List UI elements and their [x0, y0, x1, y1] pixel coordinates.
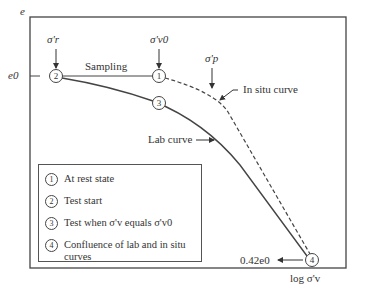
x-axis-label: log σ'v	[290, 272, 320, 284]
marker-3: 3	[152, 96, 166, 110]
sigma-r-label: σ'r	[47, 33, 59, 45]
legend-text-4: Confluence of lab and in situ curves	[64, 239, 189, 263]
legend-num-1: 1	[45, 173, 58, 186]
sampling-label: Sampling	[85, 60, 127, 72]
legend-item-2: 2 Test start	[45, 195, 102, 208]
marker-2: 2	[49, 69, 63, 83]
lab-curve-label: Lab curve	[148, 133, 192, 145]
legend-num-2: 2	[45, 195, 58, 208]
legend-num-3: 3	[45, 217, 58, 230]
marker-4: 4	[305, 253, 319, 267]
marker-1: 1	[152, 69, 166, 83]
legend-item-4: 4 Confluence of lab and in situ curves	[45, 239, 195, 263]
in-situ-pointer	[220, 90, 238, 100]
legend-text-3: Test when σ'v equals σ'v0	[64, 217, 172, 229]
sigma-v0-label: σ'v0	[150, 33, 168, 45]
legend-box: 1 At rest state 2 Test start 3 Test when…	[38, 164, 202, 262]
legend-num-4: 4	[45, 239, 58, 252]
low-e-label: 0.42e0	[240, 254, 270, 266]
legend-item-3: 3 Test when σ'v equals σ'v0	[45, 217, 172, 230]
legend-text-2: Test start	[64, 195, 102, 207]
sigma-p-label: σ'p	[205, 52, 218, 64]
in-situ-curve-label: In situ curve	[243, 83, 298, 95]
y-axis-label: e	[20, 5, 25, 17]
legend-item-1: 1 At rest state	[45, 173, 114, 186]
e0-tick-label: e0	[8, 69, 18, 81]
legend-text-1: At rest state	[64, 173, 114, 185]
